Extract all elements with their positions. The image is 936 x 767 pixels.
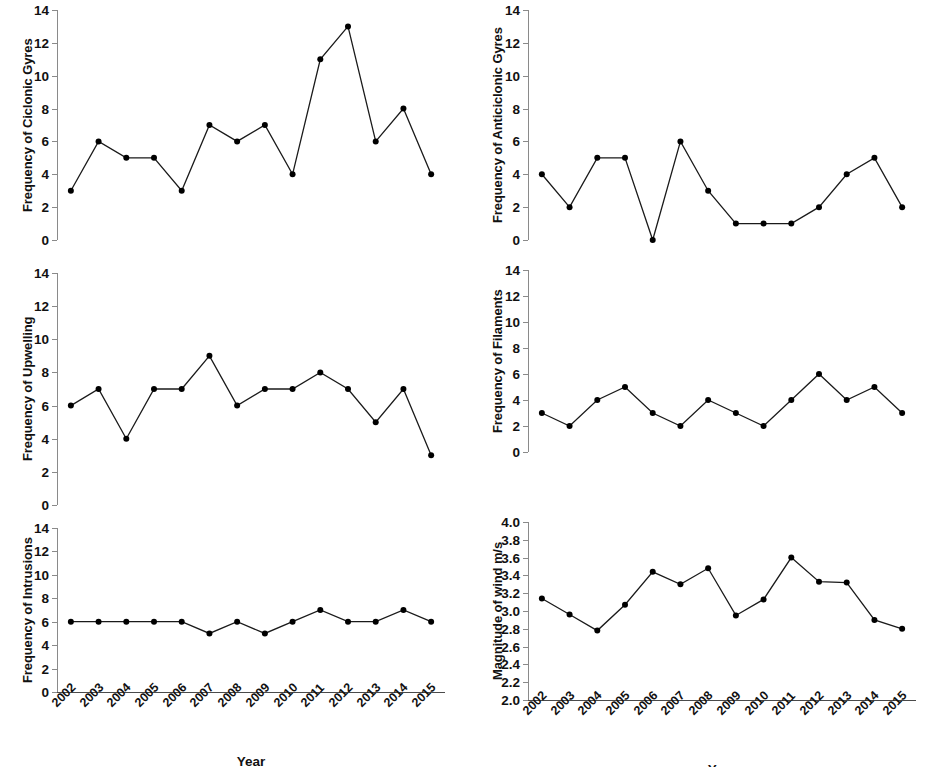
data-point-marker	[622, 602, 628, 608]
chart-panel-wind-magnitude: Magnitude of wind m/s2.02.22.42.62.83.03…	[0, 0, 936, 767]
data-point-marker	[733, 612, 739, 618]
data-point-marker	[594, 628, 600, 634]
data-point-marker	[788, 555, 794, 561]
series-plot-wind-magnitude	[0, 0, 936, 767]
data-point-marker	[761, 596, 767, 602]
data-point-marker	[677, 581, 683, 587]
series-line	[542, 558, 902, 631]
data-point-marker	[705, 565, 711, 571]
data-point-marker	[567, 612, 573, 618]
data-point-marker	[539, 596, 545, 602]
data-point-marker	[871, 617, 877, 623]
data-point-marker	[650, 569, 656, 575]
data-point-marker	[844, 580, 850, 586]
x-axis-title-wind-magnitude: Year	[662, 762, 782, 767]
data-point-marker	[899, 626, 905, 632]
multi-panel-timeseries-figure: Frequency of Ciclonic Gyres02468101214Fr…	[0, 0, 936, 767]
data-point-marker	[816, 579, 822, 585]
